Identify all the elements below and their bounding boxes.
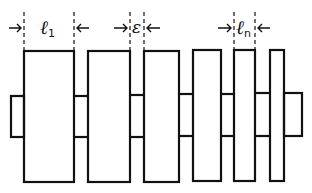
arrow-left-icon: [147, 24, 160, 32]
left-stub: [11, 96, 24, 137]
plate-2: [88, 51, 130, 182]
arrow-left-icon: [258, 24, 270, 32]
plate-6: [270, 50, 284, 181]
plate-3: [144, 51, 179, 182]
arrow-right-icon: [9, 24, 21, 32]
plate-diagram: ℓ1 ε ℓn: [0, 0, 312, 193]
arrow-right-icon: [218, 24, 231, 32]
plate-5: [234, 50, 255, 181]
label-ln: ℓn: [236, 16, 251, 40]
label-epsilon: ε: [132, 17, 141, 37]
arrow-left-icon: [77, 24, 89, 32]
arrow-right-icon: [114, 24, 127, 32]
label-l1: ℓ1: [40, 16, 55, 40]
plate-4: [193, 50, 221, 181]
plate-1: [24, 51, 74, 182]
right-stub: [284, 93, 302, 136]
plates: [11, 50, 302, 182]
